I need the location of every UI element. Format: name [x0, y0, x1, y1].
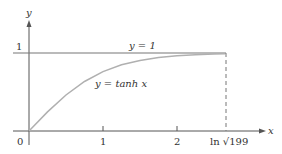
x-axis-label: x [268, 125, 274, 136]
asymptote-label: y = 1 [128, 40, 156, 51]
x-tick-label-1: 1 [100, 136, 106, 147]
origin-label: 0 [17, 136, 23, 147]
x-axis-arrow-icon [259, 129, 266, 134]
x-tick-label-2: 2 [174, 136, 180, 147]
y-axis-label: y [25, 7, 32, 18]
tanh-curve [29, 54, 225, 131]
x-tick-label-ln: ln √199 [210, 136, 248, 147]
y-axis-arrow-icon [27, 20, 32, 27]
y-tick-label-1: 1 [16, 41, 22, 52]
curve-label: y = tanh x [94, 78, 147, 89]
tanh-chart: y x 0 1 2 ln √199 1 y = 1 y = tanh x [0, 0, 282, 154]
